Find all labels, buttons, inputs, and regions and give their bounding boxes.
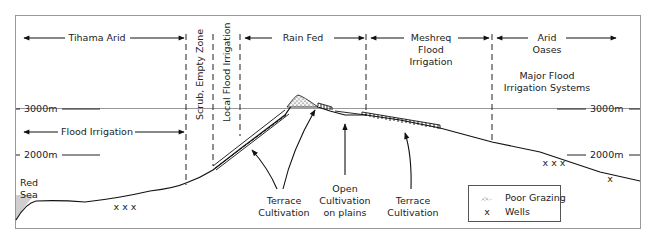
annotation-open-line2: Cultivation (319, 195, 370, 206)
terrace-hatching-right (318, 103, 440, 129)
zone-meshreq-line3: Irrigation (409, 56, 452, 67)
elevation-right-2000: 2000m (590, 149, 623, 160)
legend-wells-symbol: x (484, 206, 490, 217)
wells-far-right: x (607, 173, 613, 184)
zone-arid-line2: Oases (532, 44, 561, 55)
zone-tihama-arid: Tihama Arid (67, 32, 125, 43)
wells-right: x x x (543, 157, 566, 168)
zone-major-flood-line2: Irrigation Systems (504, 82, 591, 93)
elevation-left-2000: 2000m (24, 149, 57, 160)
zone-meshreq-line2: Flood (418, 44, 444, 55)
legend-wells: Wells (505, 206, 530, 217)
annotation-terrace-right-line2: Cultivation (387, 207, 438, 218)
annotation-terrace-left-line1: Terrace (266, 195, 302, 206)
zone-rain-fed: Rain Fed (283, 32, 324, 43)
frame-top (16, 16, 641, 109)
zone-arid-line1: Arid (537, 32, 556, 43)
zone-local-flood-irrigation: Local Flood Irrigation (221, 22, 232, 122)
zone-meshreq-line1: Meshreq (411, 32, 452, 43)
annotation-terrace-left-line2: Cultivation (258, 207, 309, 218)
zone-flood-irrigation: Flood Irrigation (61, 126, 133, 137)
elevation-left-3000: 3000m (24, 103, 57, 114)
zone-scrub-empty: Scrub, Empty Zone (194, 29, 205, 120)
poor-grazing-area (287, 95, 318, 107)
elevation-right-3000: 3000m (590, 103, 623, 114)
annotation-terrace-right-line1: Terrace (395, 195, 431, 206)
annotation-open-line1: Open (332, 183, 357, 194)
red-sea-label-line1: Red (20, 177, 38, 188)
zone-major-flood-line1: Major Flood (519, 70, 574, 81)
terrain-profile-diagram: Tihama Arid Flood Irrigation Scrub, Empt… (0, 0, 648, 240)
legend-poor-grazing: Poor Grazing (505, 192, 566, 203)
red-sea-label-line2: Sea (20, 189, 38, 200)
wells-left: x x x (114, 201, 137, 212)
annotation-open-line3: on plains (324, 207, 367, 218)
